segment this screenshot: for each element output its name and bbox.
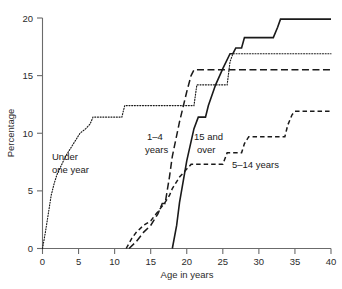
annotation-under-one-year-line1: Under: [52, 151, 78, 162]
annotation-fifteen-and-over-line1: 15 and: [194, 131, 223, 142]
x-tick-label: 40: [326, 256, 337, 267]
chart-background: [0, 0, 342, 289]
annotation-five-to-fourteen-years-line1: 5–14 years: [232, 159, 279, 170]
x-tick-label: 10: [109, 256, 120, 267]
y-tick-label: 15: [22, 70, 33, 81]
x-tick-label: 25: [218, 256, 229, 267]
y-tick-label: 0: [28, 243, 33, 254]
y-tick-label: 10: [22, 128, 33, 139]
x-tick-label: 0: [40, 256, 45, 267]
annotation-one-to-four-years-line1: 1–4: [147, 131, 163, 142]
annotation-under-one-year-line2: one year: [52, 164, 89, 175]
x-tick-label: 35: [290, 256, 301, 267]
x-tick-label: 30: [254, 256, 265, 267]
annotation-fifteen-and-over-line2: over: [197, 144, 215, 155]
x-axis-title: Age in years: [161, 269, 214, 280]
chart-svg: 05101520 0510152025303540 Under one year…: [0, 0, 342, 289]
x-tick-label: 15: [145, 256, 156, 267]
y-tick-label: 20: [22, 13, 33, 24]
x-tick-label: 20: [181, 256, 192, 267]
y-axis-title: Percentage: [5, 109, 16, 158]
y-tick-label: 5: [28, 185, 33, 196]
annotation-five-to-fourteen-years: 5–14 years: [232, 159, 279, 170]
annotation-one-to-four-years-line2: years: [145, 144, 168, 155]
chart-figure: 05101520 0510152025303540 Under one year…: [0, 0, 342, 289]
x-tick-label: 5: [76, 256, 81, 267]
